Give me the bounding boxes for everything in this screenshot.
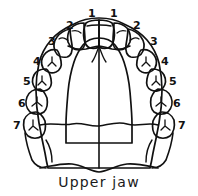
incisor-left-central-edge: [87, 25, 98, 26]
tooth-right-canine: [126, 29, 144, 57]
tooth-label-right-7: 7: [178, 120, 186, 131]
figure-caption: Upper jaw: [0, 174, 198, 190]
tooth-label-right-5: 5: [169, 76, 177, 87]
molar-left-second-cusp: [29, 120, 38, 130]
tooth-left-canine: [54, 29, 72, 57]
incisor-right-lateral-groove: [117, 31, 126, 33]
tooth-label-left-2: 2: [66, 20, 74, 31]
premolar-left-first-cusp: [48, 57, 56, 66]
canine-left-cusp-line: [59, 38, 68, 41]
upper-jaw-diagram: 1 2 3 4 5 6 7 1 2 3 4 5 6 7 Upper jaw: [0, 0, 198, 196]
premolar-right-first-cusp: [142, 57, 150, 66]
tooth-label-left-7: 7: [13, 120, 21, 131]
tooth-label-left-3: 3: [48, 36, 56, 47]
tooth-label-left-4: 4: [33, 56, 41, 67]
left-gum-fold: [46, 140, 52, 162]
tooth-label-left-6: 6: [18, 98, 26, 109]
canine-right-cusp-line: [130, 38, 139, 41]
tooth-right-central-incisor: [99, 20, 114, 48]
incisor-right-central-edge: [100, 25, 111, 26]
tooth-label-right-4: 4: [161, 56, 169, 67]
right-gum-fold: [146, 140, 152, 162]
tooth-label-right-3: 3: [150, 36, 158, 47]
premolar-left-second-cusp: [38, 76, 46, 85]
tooth-left-central-incisor: [84, 20, 99, 48]
tooth-label-left-1: 1: [88, 8, 96, 19]
tooth-label-right-1: 1: [110, 8, 118, 19]
tooth-label-right-6: 6: [173, 98, 181, 109]
premolar-right-second-cusp: [152, 76, 160, 85]
molar-right-second-cusp: [161, 120, 170, 130]
tooth-label-left-5: 5: [23, 76, 31, 87]
tooth-label-right-2: 2: [133, 20, 141, 31]
jaw-drawing: [0, 0, 198, 196]
